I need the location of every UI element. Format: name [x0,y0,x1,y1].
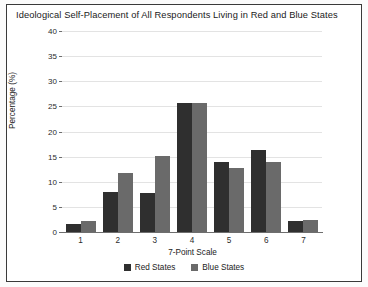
legend-label: Blue States [202,263,244,272]
y-axis-tick-label: 30 [48,77,57,86]
y-axis-tick-label: 25 [48,102,57,111]
x-axis-label: 7-Point Scale [62,248,323,257]
bar-red-states-7 [288,221,303,232]
bar-group [140,31,170,232]
bar-red-states-1 [66,224,81,232]
bar-blue-states-4 [192,103,207,232]
y-axis-label: Percentage (%) [8,41,17,161]
x-axis-tick-label: 7 [301,236,306,245]
legend-item-blue-states: Blue States [191,263,244,272]
bar-group [103,31,133,232]
y-axis-tick-label: 40 [48,27,57,36]
y-axis-tick-mark [59,56,62,57]
bar-blue-states-5 [229,168,244,232]
x-axis-tick-label: 3 [153,236,158,245]
y-axis-tick-label: 35 [48,52,57,61]
x-axis-line [62,232,323,233]
y-axis-tick-mark [59,81,62,82]
legend-swatch-icon [191,264,198,271]
bar-red-states-2 [103,192,118,232]
bar-group [214,31,244,232]
y-axis-tick-mark [59,232,62,233]
legend-label: Red States [135,263,176,272]
y-axis-tick-label: 20 [48,127,57,136]
x-axis-tick-label: 1 [78,236,83,245]
x-axis-tick-label: 4 [190,236,195,245]
bar-red-states-5 [214,162,229,232]
chart-figure: Ideological Self-Placement of All Respon… [0,0,368,287]
y-axis-tick-mark [59,106,62,107]
bar-red-states-4 [177,103,192,232]
y-axis-tick-mark [59,31,62,32]
y-axis-tick-mark [59,157,62,158]
bar-blue-states-7 [303,220,318,232]
chart-title: Ideological Self-Placement of All Respon… [16,10,338,20]
bar-group [251,31,281,232]
x-axis-tick-label: 2 [115,236,120,245]
y-axis-tick-label: 15 [48,152,57,161]
y-axis-tick-labels: 0510152025303540 [28,31,57,232]
bar-blue-states-6 [266,162,281,232]
bar-blue-states-3 [155,156,170,232]
legend-item-red-states: Red States [124,263,176,272]
y-axis-tick-mark [59,132,62,133]
y-axis-tick-mark [59,182,62,183]
chart-legend: Red StatesBlue States [0,263,368,272]
bar-red-states-3 [140,193,155,232]
x-axis-tick-label: 6 [264,236,269,245]
bar-red-states-6 [251,150,266,232]
x-axis-tick-label: 5 [227,236,232,245]
bar-blue-states-2 [118,173,133,232]
y-axis-tick-label: 10 [48,177,57,186]
bar-blue-states-1 [81,221,96,232]
bar-group [66,31,96,232]
bar-group [177,31,207,232]
y-axis-tick-mark [59,207,62,208]
plot-area [62,31,322,232]
legend-swatch-icon [124,264,131,271]
bar-group [288,31,318,232]
y-axis-tick-label: 5 [53,202,57,211]
y-axis-tick-label: 0 [53,228,57,237]
